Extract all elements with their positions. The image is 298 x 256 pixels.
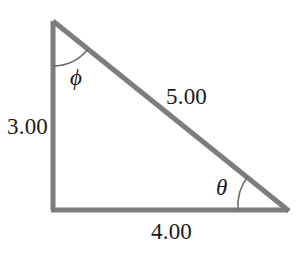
side-label-hypotenuse: 5.00 [166, 85, 207, 108]
angle-label-theta: θ [216, 176, 227, 199]
angle-phi-arc [53, 49, 88, 66]
angle-theta-arc [238, 176, 248, 210]
angle-label-phi: ϕ [70, 66, 82, 89]
side-label-base-leg: 4.00 [151, 220, 192, 243]
side-label-vertical-leg: 3.00 [7, 115, 48, 138]
triangle-figure: 3.00 5.00 4.00 ϕ θ [0, 0, 298, 256]
